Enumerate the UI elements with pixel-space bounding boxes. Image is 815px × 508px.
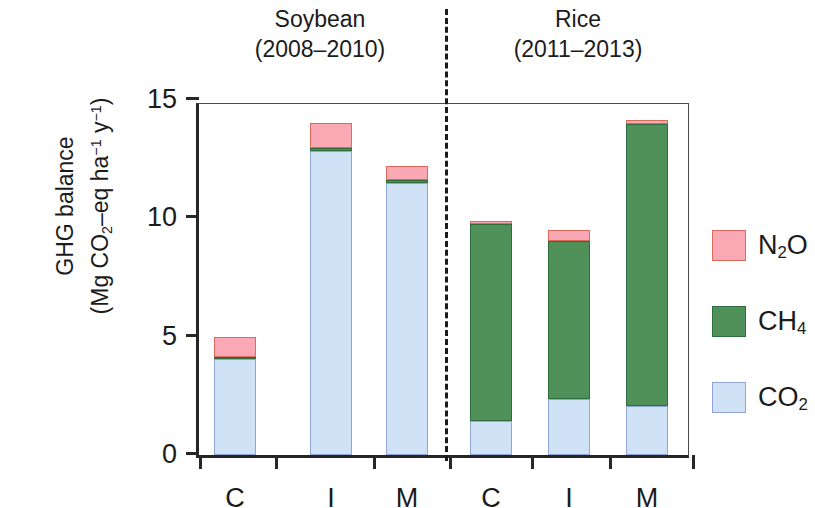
- legend: N2OCH4CO2: [712, 222, 812, 450]
- group-header-soybean-name: Soybean: [205, 4, 435, 34]
- legend-label-ch4: CH4: [758, 298, 806, 352]
- legend-item-n2o[interactable]: N2O: [712, 222, 812, 298]
- group-header-rice-years: (2011–2013): [468, 34, 688, 64]
- x-tick-6: [692, 455, 695, 469]
- y-tick-label-0: 0: [162, 439, 177, 469]
- bar-segment-ch4: [548, 241, 590, 400]
- x-tick-1: [275, 455, 278, 469]
- y-axis-title-line-2: (Mg CO2–eq ha−1 y−1): [81, 51, 123, 361]
- y-tick-label-10: 10: [147, 202, 177, 232]
- bar-segment-co2: [470, 421, 512, 455]
- legend-swatch-co2: [712, 382, 746, 413]
- x-tick-label-rice-c: C: [471, 483, 511, 508]
- bar-segment-co2: [626, 406, 668, 455]
- group-header-rice-name: Rice: [468, 4, 688, 34]
- y-tick-0: 0: [186, 452, 199, 455]
- bar-segment-n2o: [626, 120, 668, 124]
- y-tick-label-5: 5: [162, 321, 177, 351]
- ghg-balance-stacked-bar-chart: Soybean (2008–2010) Rice (2011–2013) GHG…: [0, 0, 815, 508]
- crop-group-divider: [445, 9, 448, 461]
- bar-segment-co2: [214, 359, 256, 455]
- x-tick-label-soybean-m: M: [387, 483, 427, 508]
- y-tick-10: 10: [186, 215, 199, 218]
- bar-segment-n2o: [386, 166, 428, 180]
- bar-segment-ch4: [310, 148, 352, 151]
- x-tick-3: [449, 455, 452, 469]
- bar-segment-n2o: [214, 337, 256, 357]
- legend-swatch-ch4: [712, 306, 746, 337]
- legend-item-ch4[interactable]: CH4: [712, 298, 812, 374]
- plot-area: 051015 CIMCIM: [196, 103, 689, 458]
- legend-swatch-n2o: [712, 230, 746, 261]
- x-tick-4: [531, 455, 534, 469]
- x-tick-label-soybean-i: I: [311, 483, 351, 508]
- legend-label-co2: CO2: [758, 374, 808, 428]
- bar-segment-co2: [386, 183, 428, 455]
- bar-segment-ch4: [386, 180, 428, 182]
- x-tick-2: [373, 455, 376, 469]
- bar-segment-co2: [548, 399, 590, 455]
- bar-segment-n2o: [310, 123, 352, 148]
- y-axis-title: GHG balance (Mg CO2–eq ha−1 y−1): [50, 51, 112, 361]
- group-header-rice: Rice (2011–2013): [468, 4, 688, 64]
- x-tick-label-soybean-c: C: [215, 483, 255, 508]
- y-axis-title-line-1: GHG balance: [50, 51, 81, 361]
- group-header-soybean-years: (2008–2010): [205, 34, 435, 64]
- bar-segment-ch4: [214, 357, 256, 359]
- bar-segment-ch4: [626, 124, 668, 407]
- x-tick-label-rice-m: M: [627, 483, 667, 508]
- x-tick-0: [199, 455, 202, 469]
- bar-segment-co2: [310, 151, 352, 455]
- bar-segment-n2o: [470, 221, 512, 225]
- y-tick-15: 15: [186, 97, 199, 100]
- legend-item-co2[interactable]: CO2: [712, 374, 812, 450]
- group-header-soybean: Soybean (2008–2010): [205, 4, 435, 64]
- y-tick-5: 5: [186, 334, 199, 337]
- legend-label-n2o: N2O: [758, 222, 808, 276]
- bar-segment-n2o: [548, 230, 590, 241]
- bar-segment-ch4: [470, 224, 512, 420]
- y-tick-label-15: 15: [147, 84, 177, 114]
- x-tick-label-rice-i: I: [549, 483, 589, 508]
- x-tick-5: [609, 455, 612, 469]
